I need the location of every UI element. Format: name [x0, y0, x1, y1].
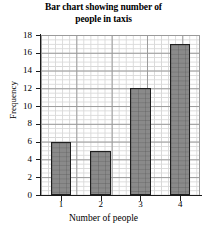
x-tick-mark	[140, 196, 141, 201]
x-tick-mark	[61, 196, 62, 201]
y-tick-label: 12	[10, 84, 32, 93]
x-axis-line	[40, 195, 202, 196]
chart-title: Bar chart showing number of people in ta…	[0, 2, 207, 25]
y-tick-label: 18	[10, 31, 32, 40]
chart-title-line-1: Bar chart showing number of	[0, 2, 207, 14]
bar	[170, 44, 191, 195]
bar	[130, 88, 151, 195]
y-tick-label: 10	[10, 102, 32, 111]
plot-area	[41, 35, 200, 195]
y-tick-label: 8	[10, 119, 32, 128]
bar-grid-overlay	[91, 152, 110, 194]
bar	[51, 142, 72, 195]
y-axis-line	[40, 34, 41, 196]
bar-grid-overlay	[171, 45, 190, 194]
bar-grid-overlay	[131, 89, 150, 194]
y-tick-label: 4	[10, 155, 32, 164]
grid-top-edge	[41, 35, 200, 36]
grid-right-edge	[199, 35, 200, 195]
x-tick-mark	[101, 196, 102, 201]
x-tick-mark	[180, 196, 181, 201]
y-tick-label: 16	[10, 48, 32, 57]
chart-title-line-2: people in taxis	[0, 14, 207, 26]
bar	[90, 151, 111, 195]
y-tick-label: 0	[10, 191, 32, 200]
y-tick-label: 6	[10, 137, 32, 146]
x-axis-label: Number of people	[0, 213, 207, 223]
bar-chart: Bar chart showing number of people in ta…	[0, 0, 207, 233]
y-tick-label: 14	[10, 66, 32, 75]
bar-grid-overlay	[52, 143, 71, 194]
y-tick-label: 2	[10, 173, 32, 182]
